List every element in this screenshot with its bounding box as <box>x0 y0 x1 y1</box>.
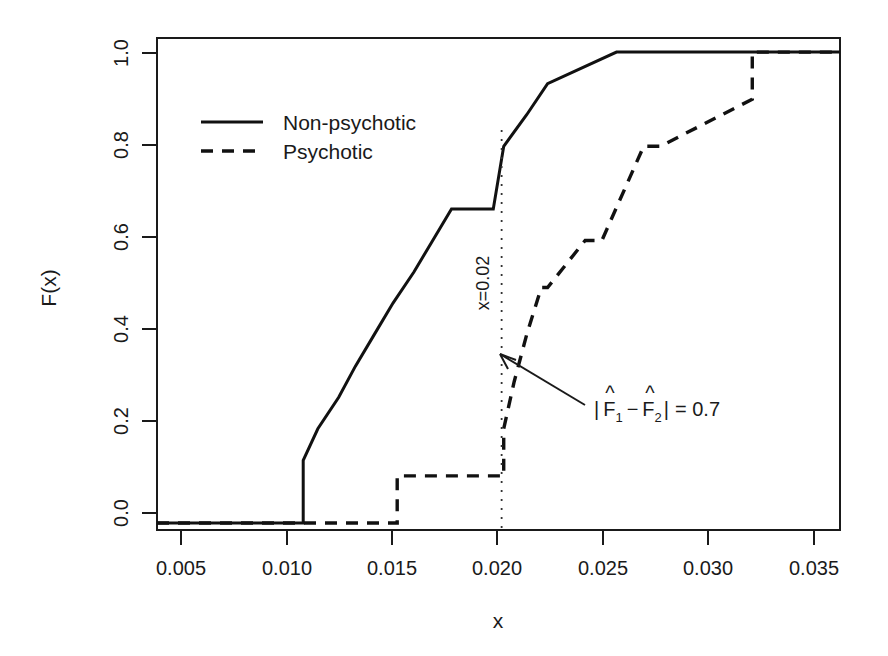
x-tick-label-1: 0.010 <box>262 557 312 579</box>
legend-label-psychotic: Psychotic <box>283 140 373 163</box>
x-axis-tick-labels: 0.005 0.010 0.015 0.020 0.025 0.030 0.03… <box>156 557 839 579</box>
ecdf-figure: 0.005 0.010 0.015 0.020 0.025 0.030 0.03… <box>0 0 888 656</box>
gap-f2-sub: 2 <box>655 410 662 425</box>
y-tick-label-4: 0.8 <box>110 131 132 159</box>
y-tick-label-2: 0.4 <box>110 315 132 343</box>
x-axis-title: x <box>493 609 504 632</box>
gap-callout-arrow <box>500 354 585 405</box>
x-tick-label-0: 0.005 <box>156 557 206 579</box>
gap-close-bar: | <box>664 398 669 420</box>
x-axis-ticks <box>181 530 814 545</box>
ecdf-chart-canvas: 0.005 0.010 0.015 0.020 0.025 0.030 0.03… <box>0 0 888 656</box>
y-axis-tick-labels: 0.0 0.2 0.4 0.6 0.8 1.0 <box>110 39 132 527</box>
y-axis-ticks <box>142 53 157 513</box>
gap-f1-hat-icon: ^ <box>605 382 615 404</box>
chart-legend: Non-psychotic Psychotic <box>201 111 416 163</box>
plot-frame <box>157 38 840 530</box>
x-tick-label-6: 0.035 <box>789 557 839 579</box>
y-tick-label-0: 0.0 <box>110 499 132 527</box>
gap-f2-hat-icon: ^ <box>645 382 655 404</box>
y-tick-label-1: 0.2 <box>110 407 132 435</box>
x-tick-label-3: 0.020 <box>472 557 522 579</box>
gap-minus: − <box>627 398 639 420</box>
legend-label-non-psychotic: Non-psychotic <box>283 111 416 134</box>
gap-equals: = 0.7 <box>675 398 720 420</box>
x-tick-label-4: 0.025 <box>578 557 628 579</box>
vertical-reference-label: x=0.02 <box>473 256 493 311</box>
gap-open-bar: | <box>594 398 599 420</box>
y-axis-title: F(x) <box>37 269 60 306</box>
y-tick-label-5: 1.0 <box>110 39 132 67</box>
x-tick-label-5: 0.030 <box>683 557 733 579</box>
x-tick-label-2: 0.015 <box>367 557 417 579</box>
arrow-shaft <box>500 354 585 405</box>
gap-f1-sub: 1 <box>615 410 622 425</box>
y-tick-label-3: 0.6 <box>110 223 132 251</box>
gap-callout-label: |F1−F2|= 0.7 ^ ^ <box>594 382 720 425</box>
